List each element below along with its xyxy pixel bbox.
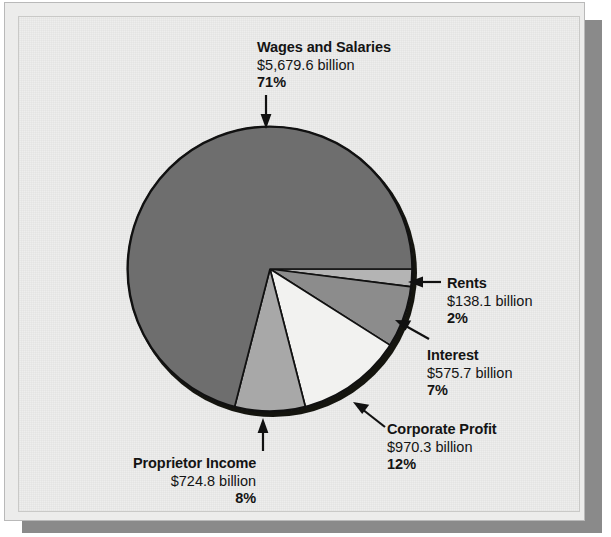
- figure-root: Wages and Salaries $5,679.6 billion 71% …: [0, 0, 611, 537]
- callout-interest: Interest $575.7 billion 7%: [427, 347, 512, 400]
- callout-proprietor-income-percent: 8%: [133, 490, 256, 508]
- callout-wages-label: Wages and Salaries: [257, 39, 391, 57]
- callout-wages-and-salaries: Wages and Salaries $5,679.6 billion 71%: [257, 39, 391, 92]
- leader-proprietor-income: [258, 418, 269, 451]
- callout-corporate-profit-percent: 12%: [387, 456, 497, 474]
- callout-corporate-profit: Corporate Profit $970.3 billion 12%: [387, 421, 497, 474]
- callout-corporate-profit-label: Corporate Profit: [387, 421, 497, 439]
- callout-rents-amount: $138.1 billion: [447, 293, 532, 311]
- callout-proprietor-income: Proprietor Income $724.8 billion 8%: [133, 455, 256, 508]
- callout-corporate-profit-amount: $970.3 billion: [387, 439, 497, 457]
- callout-rents: Rents $138.1 billion 2%: [447, 275, 532, 328]
- callout-rents-percent: 2%: [447, 310, 532, 328]
- callout-rents-label: Rents: [447, 275, 532, 293]
- leader-rents: [408, 276, 441, 287]
- callout-proprietor-income-label: Proprietor Income: [133, 455, 256, 473]
- callout-interest-percent: 7%: [427, 382, 512, 400]
- callout-interest-label: Interest: [427, 347, 512, 365]
- leader-wages: [261, 95, 272, 129]
- leader-interest: [395, 320, 429, 339]
- callout-wages-percent: 71%: [257, 74, 391, 92]
- callout-wages-amount: $5,679.6 billion: [257, 57, 391, 75]
- callout-interest-amount: $575.7 billion: [427, 365, 512, 383]
- leader-corporate-profit: [353, 402, 385, 427]
- callout-proprietor-income-amount: $724.8 billion: [133, 473, 256, 491]
- chart-panel: Wages and Salaries $5,679.6 billion 71% …: [4, 2, 585, 521]
